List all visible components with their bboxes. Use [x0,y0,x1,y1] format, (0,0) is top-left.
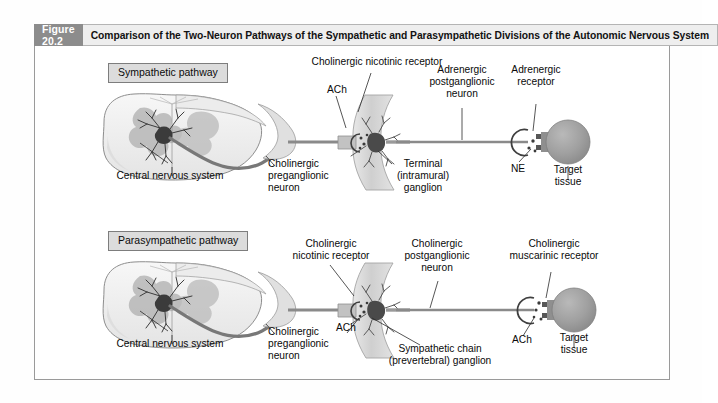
label-muscarinic-receptor-parasympathetic: Cholinergic muscarinic receptor [498,238,610,262]
label-terminal-ganglion-sympathetic: Terminal (intramural) ganglion [378,158,468,193]
parasympathetic-panel-label: Parasympathetic pathway [108,231,248,251]
label-target-para-line1: Target [549,332,599,344]
label-receptor-line2: receptor [500,76,572,88]
label-chain-line2: (prevertebral) ganglion [355,355,525,367]
label-preganglionic-line3: neuron [268,182,358,194]
label-postganglionic-line3: neuron [413,88,511,100]
label-ach-left-parasympathetic: ACh [330,322,362,334]
sympathetic-panel-label: Sympathetic pathway [108,63,228,83]
label-muscarinic-line2: muscarinic receptor [498,250,610,262]
label-target-para-line2: tissue [549,344,599,356]
label-adrenergic-receptor-sympathetic: Adrenergic receptor [500,64,572,88]
label-nicotinic-receptor-parasympathetic: Cholinergic nicotinic receptor [276,238,386,262]
label-chain-ganglion-parasympathetic: Sympathetic chain (prevertebral) ganglio… [355,343,525,367]
label-chain-line1: Sympathetic chain [355,343,525,355]
label-cns-sympathetic: Central nervous system [95,170,245,182]
label-muscarinic-line1: Cholinergic [498,238,610,250]
label-receptor-line1: Adrenergic [500,64,572,76]
label-nicotinic-para-line2: nicotinic receptor [276,250,386,262]
label-ach-right-parasympathetic: ACh [506,334,538,346]
label-ganglion-line1: Terminal [378,158,468,170]
label-postganglionic-para-line2: postganglionic [388,250,486,262]
label-postganglionic-line2: postganglionic [413,76,511,88]
label-ganglion-line3: ganglion [378,182,468,194]
label-postganglionic-para-line3: neuron [388,262,486,274]
figure-header: Figure 20.2 Comparison of the Two-Neuron… [34,24,670,46]
label-target-tissue-parasympathetic: Target tissue [549,332,599,356]
label-preganglionic-line1: Cholinergic [268,158,358,170]
label-target-tissue-sympathetic: Target tissue [543,164,593,188]
label-postganglionic-line1: Adrenergic [413,64,511,76]
label-preganglionic-line2: preganglionic [268,170,358,182]
label-target-line1: Target [543,164,593,176]
label-ach-sympathetic: ACh [321,84,353,96]
label-postganglionic-parasympathetic: Cholinergic postganglionic neuron [388,238,486,273]
label-preganglionic-para-line3: neuron [268,350,358,362]
label-preganglionic-para-line2: preganglionic [268,338,358,350]
label-postganglionic-sympathetic: Adrenergic postganglionic neuron [413,64,511,99]
label-postganglionic-para-line1: Cholinergic [388,238,486,250]
figure-title: Comparison of the Two-Neuron Pathways of… [83,24,718,46]
label-cns-parasympathetic: Central nervous system [95,338,245,350]
label-nicotinic-para-line1: Cholinergic [276,238,386,250]
label-ganglion-line2: (intramural) [378,170,468,182]
label-ne-sympathetic: NE [503,163,533,175]
label-preganglionic-sympathetic: Cholinergic preganglionic neuron [268,158,358,193]
label-target-line2: tissue [543,176,593,188]
figure-number-badge: Figure 20.2 [34,24,83,46]
